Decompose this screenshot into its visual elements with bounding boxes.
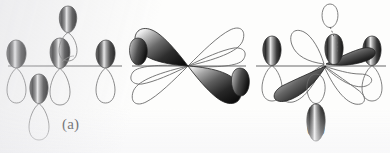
orbital-svg-c [250,0,390,153]
lobe-outline-upper-left-c [291,30,324,64]
lobe-shaded-far-right-b [231,68,249,96]
lobe-outline-upper-right-b [188,28,244,66]
lobe-shaded-left-up-c [263,36,281,66]
lobe-shaded-far-left-b [129,38,147,65]
lobe-shaded-right-a [96,40,115,68]
lobe-shaded-center-up-a [50,38,70,69]
orbital-diagram-c: (c) [250,0,390,153]
lobe-shaded-bottom-c [307,104,325,141]
lobe-outline-right-down-c [362,66,382,102]
orbital-diagram-a: (a) [0,0,130,153]
orbital-svg-b [122,0,254,153]
panel-label-a: (a) [62,116,79,133]
lobe-outline-lower-left-b [132,66,188,104]
orbital-diagram-b: (b) [122,0,254,153]
lobe-shaded-left-a [7,40,26,68]
lobe-outline-center-down-a [50,69,70,106]
lobe-outline-left-a [7,68,26,103]
lobe-shaded-center-up-c [325,34,343,65]
lobe-outline-top-c [322,4,338,28]
lobe-shaded-bottom-a [30,74,48,104]
orbital-figure: (a) [0,0,390,153]
lobe-outline-right-a [96,68,115,103]
lobe-outline-bottom-a [29,104,49,141]
lobe-shaded-top-a [59,6,76,33]
